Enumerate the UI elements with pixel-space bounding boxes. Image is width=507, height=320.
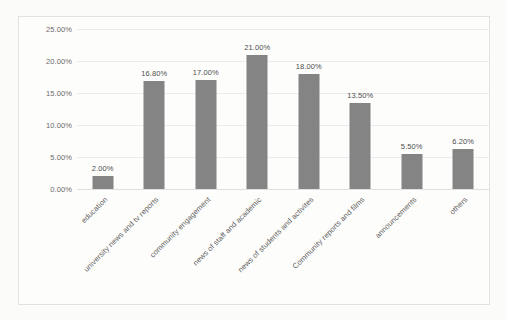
y-axis-tick-label: 10.00% — [46, 121, 72, 130]
bar-value-label: 2.00% — [92, 164, 114, 173]
category-label-slot: others — [438, 193, 490, 303]
chart-frame: 0.00%5.00%10.00%15.00%20.00%25.00% 2.00%… — [18, 16, 490, 305]
bar-slot: 21.00% — [232, 29, 284, 189]
bar[interactable] — [401, 154, 422, 189]
bar[interactable] — [350, 103, 371, 189]
scan-artifact-text: · · · · — [0, 0, 34, 3]
y-axis-tick-label: 15.00% — [46, 89, 72, 98]
bar-value-label: 18.00% — [296, 62, 322, 71]
bar-value-label: 13.50% — [347, 91, 373, 100]
bar-slot: 5.50% — [386, 29, 438, 189]
bar-slot: 17.00% — [180, 29, 232, 189]
category-label-slot: announcements — [386, 193, 438, 303]
bar-value-label: 6.20% — [452, 137, 474, 146]
bar-value-label: 17.00% — [193, 68, 219, 77]
bar-slot: 16.80% — [129, 29, 181, 189]
plot-area: 0.00%5.00%10.00%15.00%20.00%25.00% 2.00%… — [77, 29, 489, 189]
bar-slot: 18.00% — [283, 29, 335, 189]
bar[interactable] — [298, 74, 319, 189]
bar[interactable] — [144, 81, 165, 189]
scan-artifact-top: · · · · — [0, 0, 507, 10]
bar-slot: 2.00% — [77, 29, 129, 189]
category-label-slot: Community reports and films — [335, 193, 387, 303]
y-axis-tick-label: 5.00% — [50, 153, 72, 162]
bar[interactable] — [453, 149, 474, 189]
x-axis-category-labels: educationuniversity news and tv reportsc… — [77, 193, 489, 303]
bar-value-label: 16.80% — [141, 69, 167, 78]
bar[interactable] — [195, 80, 216, 189]
bar-series: 2.00%16.80%17.00%21.00%18.00%13.50%5.50%… — [77, 29, 489, 189]
x-axis-tick-label: education — [79, 195, 109, 225]
bar-slot: 6.20% — [438, 29, 490, 189]
gridline — [77, 189, 489, 190]
bar-slot: 13.50% — [335, 29, 387, 189]
bar-value-label: 5.50% — [401, 142, 423, 151]
y-axis-tick-label: 25.00% — [46, 25, 72, 34]
x-axis-tick-label: others — [448, 195, 470, 217]
y-axis-tick-label: 0.00% — [50, 185, 72, 194]
y-axis-tick-label: 20.00% — [46, 57, 72, 66]
bar-value-label: 21.00% — [244, 43, 270, 52]
bar[interactable] — [92, 176, 113, 189]
bar[interactable] — [247, 55, 268, 189]
